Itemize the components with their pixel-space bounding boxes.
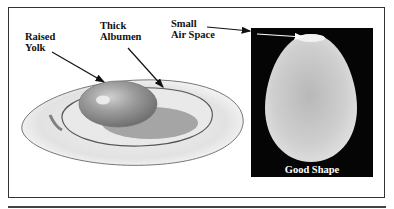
- raised-yolk-arrow: [52, 52, 104, 82]
- thick-albumen-label: Thick Albumen: [100, 20, 141, 42]
- raised-yolk-label-line1: Raised: [25, 31, 55, 42]
- air-space-arrow-inner: [257, 34, 303, 37]
- candled-egg-image: [251, 28, 373, 177]
- small-air-space-label: Small Air Space: [171, 18, 215, 40]
- thick-albumen-label-line1: Thick: [100, 20, 141, 31]
- thick-albumen-label-line2: Albumen: [100, 31, 141, 42]
- small-air-space: [297, 34, 325, 42]
- panel-caption: Good Shape: [251, 164, 373, 175]
- small-air-space-label-line2: Air Space: [171, 29, 215, 40]
- small-air-space-label-line1: Small: [171, 18, 215, 29]
- raised-yolk-label-line2: Yolk: [25, 42, 55, 53]
- raised-yolk-label: Raised Yolk: [25, 31, 55, 53]
- candled-egg-panel: Good Shape: [251, 28, 373, 177]
- egg-shape: [265, 34, 357, 162]
- raised-yolk: [79, 81, 157, 127]
